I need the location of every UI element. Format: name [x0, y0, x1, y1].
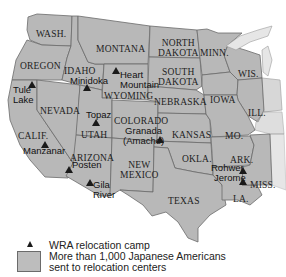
gila-line2: River [93, 190, 115, 200]
state-label-oregon: OREGON [20, 61, 61, 71]
camp-label-gila-river: Gila River [93, 180, 115, 200]
state-label-iowa: IOWA [210, 95, 236, 105]
north-dakota-line2: DAKOTA [158, 48, 199, 58]
camp-marker-topaz [92, 119, 100, 126]
state-label-wash: WASH. [36, 29, 66, 39]
camp-label-heart-mountain: Heart Mountain [120, 70, 159, 90]
state-montana [78, 16, 150, 64]
state-label-new-mexico: NEW MEXICO [120, 160, 159, 180]
legend-area-line2: sent to relocation centers [49, 262, 226, 273]
state-label-la: LA. [233, 194, 249, 204]
state-label-north-dakota: NORTH DAKOTA [158, 38, 199, 58]
state-label-south-dakota: SOUTH DAKOTA [158, 67, 199, 87]
state-label-montana: MONTANA [96, 44, 145, 54]
state-label-okla: OKLA. [182, 154, 212, 164]
state-label-wyoming: WYOMING [104, 91, 153, 101]
lake-michigan [262, 46, 272, 76]
camp-marker-granada [156, 136, 164, 143]
state-label-new-mexico-line2: MEXICO [120, 170, 159, 180]
state-label-nebraska: NEBRASKA [154, 97, 207, 107]
camp-marker-jerome [239, 178, 247, 185]
state-indiana-partial [262, 78, 282, 112]
camp-marker-heart-mountain [112, 67, 120, 74]
state-label-mo: MO. [225, 131, 243, 141]
south-dakota-line1: SOUTH [158, 67, 199, 77]
heart-line2: Mountain [120, 80, 159, 90]
state-oregon [12, 40, 71, 80]
camp-label-posten: Posten [72, 160, 102, 170]
south-dakota-line2: DAKOTA [158, 77, 199, 87]
state-label-wis: WIS. [238, 69, 259, 79]
state-label-calif: CALIF. [18, 131, 48, 141]
state-label-miss: MISS. [250, 180, 276, 190]
legend-camp-icon [27, 241, 33, 247]
state-label-kansas: KANSAS [172, 130, 211, 140]
state-label-texas: TEXAS [168, 196, 200, 206]
tule-line2: Lake [13, 95, 34, 105]
north-dakota-line1: NORTH [158, 38, 199, 48]
state-iowa [202, 72, 238, 95]
legend-area-label: More than 1,000 Japanese Americans sent … [49, 251, 226, 273]
state-label-nevada: NEVADA [40, 106, 80, 116]
camp-label-minidoka: Minidoka [70, 76, 108, 86]
camp-label-tule-lake: Tule Lake [13, 85, 34, 105]
state-label-ill: ILL. [248, 108, 266, 118]
camp-label-manzanar: Manzanar [23, 146, 65, 156]
state-label-new-mexico-line1: NEW [120, 160, 159, 170]
state-label-minn: MINN. [200, 48, 229, 58]
state-label-utah: UTAH [81, 130, 107, 140]
legend-area-swatch [17, 251, 41, 272]
